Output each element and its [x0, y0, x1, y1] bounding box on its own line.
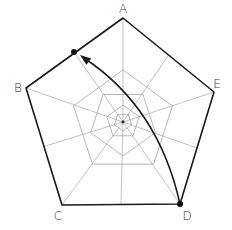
center-dot	[122, 121, 125, 124]
vertex-label-A: A	[119, 2, 127, 16]
start-dot-D	[177, 201, 183, 207]
end-dot-AB	[71, 49, 77, 55]
vertex-label-D: D	[182, 209, 191, 223]
vertex-label-B: B	[14, 81, 22, 95]
outer-pentagon	[26, 18, 214, 205]
vertex-label-E: E	[213, 77, 221, 91]
pentagon-web-diagram: A B C D E	[0, 0, 232, 230]
curved-arrow	[84, 58, 180, 204]
vertex-label-C: C	[54, 209, 62, 223]
